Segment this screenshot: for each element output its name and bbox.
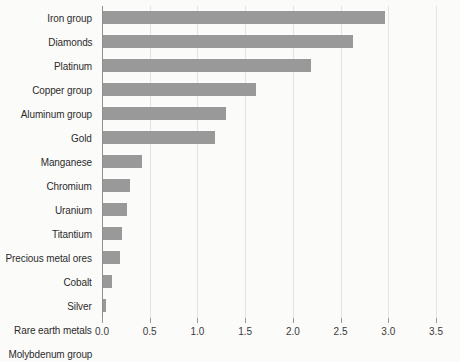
x-axis-tick-label: 0.0	[95, 326, 109, 337]
category-label-row: Platinum	[0, 54, 98, 78]
bar	[103, 59, 311, 72]
bar-row	[102, 30, 436, 54]
category-label-row: Copper group	[0, 78, 98, 102]
x-axis-tick-marks	[102, 318, 436, 324]
category-label-row: Uranium	[0, 198, 98, 222]
category-label-row: Molybdenum group	[0, 342, 98, 362]
bar	[103, 299, 106, 312]
x-axis-tick-label: 0.5	[143, 326, 157, 337]
category-label: Uranium	[55, 204, 92, 216]
bar	[103, 131, 215, 144]
chart-plot-wrapper: Iron groupDiamondsPlatinumCopper groupAl…	[0, 0, 460, 362]
category-label-row: Aluminum group	[0, 102, 98, 126]
category-label-row: Cobalt	[0, 270, 98, 294]
x-axis-tick-label: 1.0	[190, 326, 204, 337]
x-axis-tick	[436, 318, 437, 323]
category-label: Diamonds	[48, 36, 92, 48]
category-label-row: Manganese	[0, 150, 98, 174]
category-label-row: Diamonds	[0, 30, 98, 54]
x-axis-tick	[341, 318, 342, 323]
plot-area	[102, 6, 436, 318]
category-label: Chromium	[47, 180, 92, 192]
bar	[103, 227, 122, 240]
bar	[103, 155, 142, 168]
category-label-row: Silver	[0, 294, 98, 318]
x-axis-tick-label: 3.0	[381, 326, 395, 337]
bar	[103, 107, 226, 120]
bar	[103, 203, 127, 216]
category-label: Precious metal ores	[6, 252, 92, 264]
category-label: Titantium	[52, 228, 92, 240]
category-label-row: Chromium	[0, 174, 98, 198]
bar-row	[102, 102, 436, 126]
category-label: Iron group	[47, 12, 92, 24]
category-label-row: Gold	[0, 126, 98, 150]
bar-row	[102, 78, 436, 102]
bar-chart: Iron groupDiamondsPlatinumCopper groupAl…	[0, 0, 460, 362]
bar-row	[102, 294, 436, 318]
bar	[103, 35, 353, 48]
bar-row	[102, 126, 436, 150]
bar	[103, 11, 385, 24]
bar-row	[102, 246, 436, 270]
x-axis-tick	[388, 318, 389, 323]
category-label: Manganese	[41, 156, 92, 168]
category-label: Molybdenum group	[8, 348, 92, 360]
x-axis-tick-labels: 0.00.51.01.52.02.53.03.5	[0, 326, 460, 342]
category-label: Cobalt	[64, 276, 92, 288]
x-axis-tick-label: 2.5	[334, 326, 348, 337]
x-axis-tick	[102, 318, 103, 323]
bar-row	[102, 150, 436, 174]
category-label-row: Iron group	[0, 6, 98, 30]
bar	[103, 179, 130, 192]
category-label-row: Titantium	[0, 222, 98, 246]
x-axis-tick-label: 1.5	[238, 326, 252, 337]
category-label: Platinum	[54, 60, 92, 72]
x-axis-tick-label: 2.0	[286, 326, 300, 337]
bar	[103, 275, 112, 288]
bar-row	[102, 222, 436, 246]
category-label: Copper group	[32, 84, 92, 96]
category-label-row: Precious metal ores	[0, 246, 98, 270]
bar-row	[102, 6, 436, 30]
x-axis-tick	[197, 318, 198, 323]
category-label: Silver	[68, 300, 92, 312]
bar	[103, 251, 120, 264]
bar	[103, 83, 256, 96]
category-label: Gold	[71, 132, 92, 144]
category-axis-labels: Iron groupDiamondsPlatinumCopper groupAl…	[0, 6, 98, 362]
bar-row	[102, 270, 436, 294]
gridline	[436, 6, 437, 318]
bar-row	[102, 342, 436, 362]
bar-row	[102, 174, 436, 198]
x-axis-tick	[245, 318, 246, 323]
bar-row	[102, 198, 436, 222]
x-axis-tick	[293, 318, 294, 323]
bar-row	[102, 54, 436, 78]
x-axis-tick	[150, 318, 151, 323]
category-label: Aluminum group	[21, 108, 92, 120]
bars-layer	[102, 6, 436, 318]
x-axis-tick-label: 3.5	[429, 326, 443, 337]
